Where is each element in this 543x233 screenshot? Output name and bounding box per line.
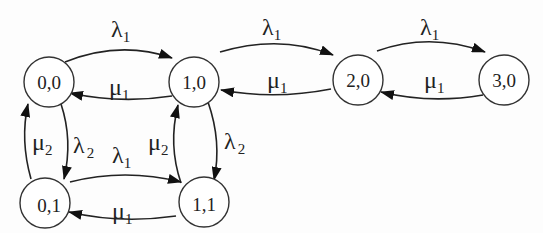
state-node-3-0: 3,0 bbox=[479, 55, 529, 105]
edge-11-to-10 bbox=[174, 105, 181, 183]
svg-text:2,0: 2,0 bbox=[346, 70, 370, 91]
edge-00-to-10 bbox=[65, 50, 172, 62]
state-node-1-1: 1,1 bbox=[179, 177, 229, 227]
edge-label-11-01: μ1 bbox=[112, 198, 132, 227]
edge-label-20-10: μ1 bbox=[267, 67, 287, 96]
edge-label-00-01: λ2 bbox=[73, 132, 94, 161]
edge-label-10-20: λ1 bbox=[262, 14, 281, 43]
edge-label-20-30: λ1 bbox=[420, 14, 439, 43]
edge-20-to-30 bbox=[377, 42, 485, 52]
edge-label-10-11: λ2 bbox=[224, 128, 245, 157]
edge-01-to-00 bbox=[25, 104, 31, 179]
svg-text:0,1: 0,1 bbox=[37, 195, 61, 216]
edge-10-to-20 bbox=[220, 44, 333, 55]
edge-30-to-20 bbox=[381, 92, 483, 99]
edge-label-00-10: λ1 bbox=[111, 16, 130, 45]
edge-label-11-10: μ2 bbox=[148, 129, 168, 158]
edge-label-10-00: μ1 bbox=[109, 74, 129, 103]
state-node-0-1: 0,1 bbox=[20, 178, 70, 228]
edge-00-to-01 bbox=[61, 104, 68, 179]
state-diagram: 0,0 1,0 2,0 3,0 0,1 1,1 λ1 μ1 λ1 μ1 λ1 μ… bbox=[0, 0, 543, 233]
edge-01-to-11 bbox=[70, 175, 181, 182]
edge-10-to-11 bbox=[208, 102, 217, 180]
svg-text:1,1: 1,1 bbox=[192, 194, 216, 215]
svg-text:0,0: 0,0 bbox=[37, 72, 61, 93]
edge-label-30-20: μ1 bbox=[424, 67, 444, 96]
state-node-0-0: 0,0 bbox=[24, 57, 74, 107]
svg-text:1,0: 1,0 bbox=[182, 72, 206, 93]
svg-text:3,0: 3,0 bbox=[492, 70, 516, 91]
state-node-1-0: 1,0 bbox=[169, 57, 219, 107]
state-node-2-0: 2,0 bbox=[333, 55, 383, 105]
edge-label-01-00: μ2 bbox=[32, 129, 52, 158]
edge-label-01-11: λ1 bbox=[112, 142, 131, 171]
